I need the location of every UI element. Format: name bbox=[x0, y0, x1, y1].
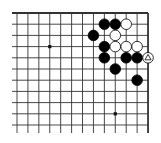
black-stone[interactable] bbox=[99, 19, 110, 30]
star-point bbox=[48, 45, 51, 48]
star-point bbox=[114, 112, 117, 115]
black-stone[interactable] bbox=[88, 30, 99, 41]
stones-layer bbox=[88, 19, 153, 86]
white-stone[interactable] bbox=[143, 53, 154, 64]
black-stone[interactable] bbox=[99, 53, 110, 64]
black-stone[interactable] bbox=[99, 41, 110, 52]
black-stone[interactable] bbox=[132, 53, 143, 64]
black-stone[interactable] bbox=[110, 64, 121, 75]
white-stone[interactable] bbox=[121, 19, 132, 30]
board-grid bbox=[12, 13, 148, 133]
black-stone[interactable] bbox=[121, 53, 132, 64]
black-stone[interactable] bbox=[132, 75, 143, 86]
go-board[interactable] bbox=[0, 0, 161, 143]
white-stone[interactable] bbox=[110, 41, 121, 52]
white-stone[interactable] bbox=[110, 30, 121, 41]
black-stone[interactable] bbox=[110, 19, 121, 30]
white-stone[interactable] bbox=[132, 41, 143, 52]
white-stone[interactable] bbox=[121, 41, 132, 52]
